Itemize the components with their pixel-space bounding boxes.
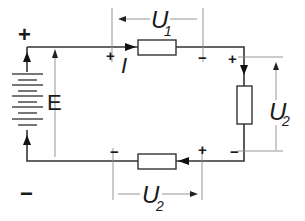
resistor-bottom-icon bbox=[138, 154, 176, 169]
resistor-bottom-plus-sign: + bbox=[198, 142, 207, 157]
battery-icon bbox=[12, 74, 43, 125]
resistor-right-plus-sign: + bbox=[228, 51, 237, 66]
resistor-top-plus-sign: + bbox=[106, 48, 115, 63]
battery-negative-sign: − bbox=[20, 183, 33, 205]
resistor-top-icon bbox=[138, 40, 176, 55]
resistor-top-minus-sign: − bbox=[198, 50, 207, 65]
voltage-u2-right-subscript: 2 bbox=[282, 114, 290, 128]
circuit-diagram: + − E I + − U 1 + − U 2 + − U 2 bbox=[0, 0, 305, 221]
resistor-right-icon bbox=[237, 86, 252, 124]
voltage-u2-bottom-subscript: 2 bbox=[156, 199, 164, 213]
voltage-u1-subscript: 1 bbox=[164, 24, 172, 38]
resistor-bottom-minus-sign: − bbox=[110, 144, 119, 159]
resistor-right-minus-sign: − bbox=[230, 144, 239, 159]
battery-positive-sign: + bbox=[18, 24, 31, 46]
current-label-i: I bbox=[121, 55, 127, 77]
source-label-e: E bbox=[47, 92, 62, 114]
